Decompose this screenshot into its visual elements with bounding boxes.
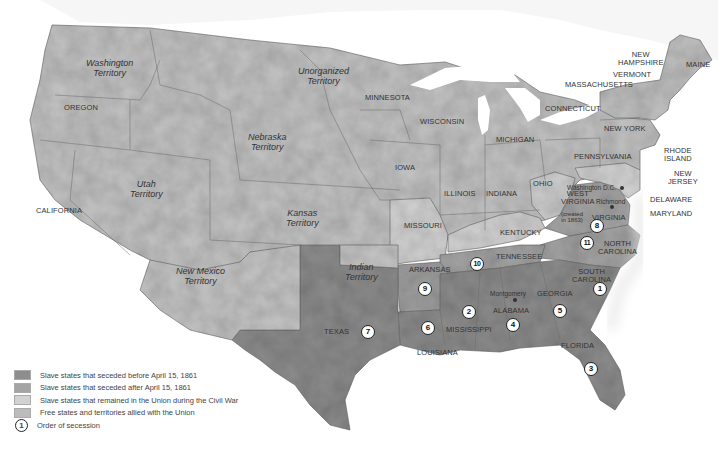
label-michigan: MICHIGAN	[496, 136, 534, 144]
legend-label: Order of secession	[37, 421, 100, 430]
secession-marker-louisiana: 6	[421, 321, 435, 335]
label-delaware: DELAWARE	[650, 196, 692, 204]
secession-marker-arkansas: 9	[418, 282, 432, 296]
label-kansas-territory: Kansas Territory	[286, 209, 319, 229]
secession-marker-south-carolina: 1	[593, 282, 607, 296]
richmond-dot-icon	[610, 205, 614, 209]
label-texas: TEXAS	[324, 328, 349, 336]
label-louisiana: LOUISIANA	[417, 349, 458, 357]
secession-marker-north-carolina: 11	[580, 236, 594, 250]
label-new-hampshire: NEW HAMPSHIRE	[618, 51, 664, 67]
label-vermont: VERMONT	[613, 71, 651, 79]
label-washington-dc: Washington D.C.	[567, 184, 616, 191]
label-richmond: Richmond	[596, 198, 625, 205]
label-ohio: OHIO	[533, 180, 553, 188]
legend-item-order: 1 Order of secession	[14, 419, 238, 432]
label-new-mexico-territory: New Mexico Territory	[176, 267, 225, 287]
legend-item-free-union: Free states and territories allied with …	[14, 407, 238, 420]
legend-label: Slave states that seceded before April 1…	[40, 371, 197, 380]
legend-label: Free states and territories allied with …	[40, 408, 195, 417]
legend-item-slave-union: Slave states that remained in the Union …	[14, 394, 238, 407]
label-unorganized-territory: Unorganized Territory	[298, 67, 349, 87]
legend-swatch-seceded-before	[14, 370, 31, 380]
label-rhode-island: RHODE ISLAND	[664, 147, 692, 163]
label-tennessee: TENNESSEE	[496, 253, 542, 261]
label-new-jersey: NEW JERSEY	[668, 170, 698, 186]
label-maine: MAINE	[686, 61, 710, 69]
legend-swatch-slave-union	[14, 395, 31, 405]
label-west-virginia: WEST VIRGINIA	[561, 190, 595, 206]
label-connecticut: CONNECTICUT	[545, 105, 601, 113]
secession-marker-tennessee: 10	[470, 257, 484, 271]
label-wisconsin: WISCONSIN	[420, 118, 464, 126]
label-alabama: ALABAMA	[493, 307, 529, 315]
label-georgia: GEORGIA	[537, 290, 573, 298]
order-circle-icon: 1	[15, 419, 28, 432]
map-legend: Slave states that seceded before April 1…	[14, 369, 238, 432]
legend-swatch-seceded-after	[14, 383, 31, 393]
label-iowa: IOWA	[395, 164, 415, 172]
secession-marker-georgia: 5	[553, 304, 567, 318]
secession-marker-texas: 7	[361, 325, 375, 339]
label-montgomery: Montgomery	[490, 290, 526, 297]
label-nebraska-territory: Nebraska Territory	[248, 133, 287, 153]
label-mississippi: MISSISSIPPI	[446, 326, 492, 334]
legend-item-seceded-before: Slave states that seceded before April 1…	[14, 369, 238, 382]
label-pennsylvania: PENNSYLVANIA	[574, 153, 632, 161]
legend-swatch-free-union	[14, 408, 31, 418]
label-washington-territory: Washington Territory	[86, 59, 133, 79]
legend-item-seceded-after: Slave states that seceded after April 15…	[14, 382, 238, 395]
label-illinois: ILLINOIS	[444, 190, 476, 198]
washington-dc-dot-icon	[620, 186, 624, 190]
montgomery-dot-icon	[513, 298, 517, 302]
label-north-carolina: NORTH CAROLINA	[598, 240, 637, 256]
legend-label: Slave states that seceded after April 15…	[40, 383, 191, 392]
legend-label: Slave states that remained in the Union …	[40, 396, 238, 405]
label-south-carolina: SOUTH CAROLINA	[572, 268, 611, 284]
label-utah-territory: Utah Territory	[130, 180, 163, 200]
secession-marker-mississippi: 2	[462, 305, 476, 319]
label-kentucky: KENTUCKY	[500, 229, 542, 237]
label-massachusetts: MASSACHUSETTS	[565, 81, 633, 89]
label-florida: FLORIDA	[561, 342, 594, 350]
label-minnesota: MINNESOTA	[365, 94, 410, 102]
label-indiana: INDIANA	[486, 190, 517, 198]
label-indian-territory: Indian Territory	[345, 263, 378, 283]
label-west-virginia-note: (created in 1863)	[561, 211, 583, 223]
secession-marker-virginia: 8	[590, 219, 604, 233]
secession-marker-alabama: 4	[506, 318, 520, 332]
secession-marker-florida: 3	[584, 362, 598, 376]
label-california: CALIFORNIA	[36, 207, 82, 215]
label-missouri: MISSOURI	[404, 222, 442, 230]
label-oregon: OREGON	[64, 104, 98, 112]
label-new-york: NEW YORK	[604, 125, 646, 133]
label-arkansas: ARKANSAS	[409, 266, 451, 274]
label-maryland: MARYLAND	[650, 210, 692, 218]
